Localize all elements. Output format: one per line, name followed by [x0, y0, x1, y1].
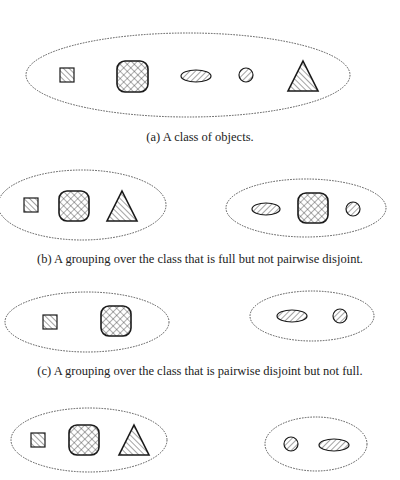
group-boundary-ellipse: [5, 292, 169, 352]
panel-b: [0, 170, 386, 240]
panel-a: [26, 33, 350, 117]
rounded-square-object: [101, 306, 131, 336]
group: [265, 417, 367, 471]
rounded-square-object: [117, 61, 148, 92]
square-object: [24, 198, 38, 212]
panel-c: [5, 291, 374, 352]
group: [226, 179, 386, 237]
group: [11, 408, 167, 472]
oval-object: [181, 70, 211, 82]
caption-c: (c) A grouping over the class that is pa…: [0, 364, 400, 379]
group-boundary-ellipse: [265, 417, 367, 471]
triangle-object: [107, 191, 137, 221]
circle-object: [284, 437, 298, 451]
caption-b: (b) A grouping over the class that is fu…: [0, 252, 400, 267]
group: [250, 291, 374, 341]
circle-object: [239, 68, 253, 82]
panel-d: [11, 408, 367, 472]
grouping-diagram: [0, 0, 400, 480]
circle-object: [333, 309, 347, 323]
square-object: [60, 68, 74, 82]
group: [0, 170, 166, 240]
square-object: [43, 315, 57, 329]
oval-object: [252, 203, 280, 215]
caption-a: (a) A class of objects.: [0, 130, 400, 145]
oval-object: [277, 310, 307, 322]
circle-object: [346, 202, 360, 216]
triangle-object: [288, 61, 318, 91]
triangle-object: [119, 425, 149, 455]
rounded-square-object: [298, 193, 328, 223]
rounded-square-object: [59, 191, 89, 221]
oval-object: [319, 439, 349, 451]
group: [5, 292, 169, 352]
group-boundary-ellipse: [250, 291, 374, 341]
square-object: [31, 433, 45, 447]
group: [26, 33, 350, 117]
rounded-square-object: [69, 425, 99, 455]
